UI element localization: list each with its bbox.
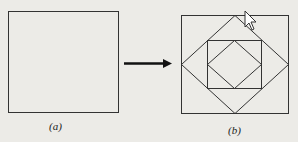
panel-a-square xyxy=(9,12,119,113)
diagram-canvas xyxy=(0,0,298,142)
panel-a-label: (a) xyxy=(49,120,62,132)
mouse-cursor-icon xyxy=(245,11,256,30)
panel-b-label: (b) xyxy=(228,124,241,136)
arrow-icon xyxy=(124,59,172,68)
panel-b-outer-diamond xyxy=(182,16,289,114)
panel-b-inner-square xyxy=(208,41,262,89)
panel-b-inner-diamond xyxy=(208,41,262,89)
panel-b-outer-square xyxy=(182,16,289,114)
